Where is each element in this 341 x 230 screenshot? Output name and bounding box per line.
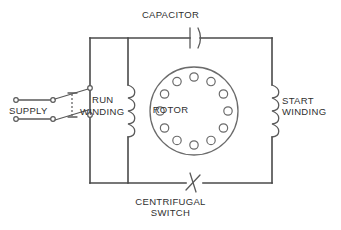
rotor-bar xyxy=(207,136,215,144)
supply-terminal-4 xyxy=(51,117,56,122)
switch-tick xyxy=(190,173,196,192)
motor-wiring-diagram: CAPACITOR ROTOR CENTRIFUGAL SWITCH START… xyxy=(0,0,341,230)
supply-terminal-1 xyxy=(14,98,19,103)
centrifugal-switch-symbol xyxy=(186,173,200,192)
motor-terminal-run-top xyxy=(88,86,93,91)
supply-label: SUPPLY xyxy=(9,105,48,116)
rotor-bar xyxy=(190,73,198,81)
winding-label: WINDING xyxy=(80,106,124,117)
rotor-bar xyxy=(207,77,215,85)
rotor-bar xyxy=(160,90,168,98)
start-winding-label: START WINDING xyxy=(282,95,340,117)
run-label: RUN xyxy=(92,94,113,105)
rotor-bar xyxy=(160,124,168,132)
supply-terminal-2 xyxy=(51,98,56,103)
rotor-bar xyxy=(173,136,181,144)
supply-terminal-3 xyxy=(14,117,19,122)
rotor-bar xyxy=(190,141,198,149)
capacitor-label: CAPACITOR xyxy=(0,9,341,20)
rotor-bar xyxy=(219,90,227,98)
capacitor-symbol xyxy=(190,28,201,48)
rotor-bar xyxy=(219,124,227,132)
centrifugal-switch-label: CENTRIFUGAL SWITCH xyxy=(0,196,341,218)
rotor-bar xyxy=(173,77,181,85)
